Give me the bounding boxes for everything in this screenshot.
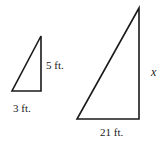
large-vertical-label: x <box>151 66 156 78</box>
triangles-figure <box>0 0 164 143</box>
small-vertical-label: 5 ft. <box>46 60 64 71</box>
large-triangle <box>77 8 139 119</box>
large-horizontal-label: 21 ft. <box>100 127 123 138</box>
small-triangle <box>12 36 41 91</box>
small-horizontal-label: 3 ft. <box>13 103 31 114</box>
